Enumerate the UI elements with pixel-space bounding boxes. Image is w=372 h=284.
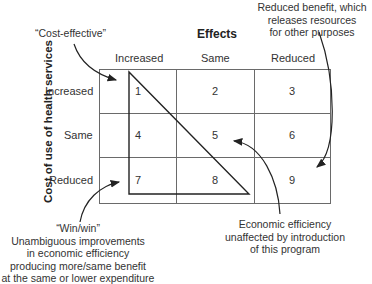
arrow-reduced-benefit bbox=[317, 32, 332, 167]
effects-title: Effects bbox=[197, 27, 237, 41]
annotation-line: in economic efficiency bbox=[0, 247, 158, 260]
annotation-reduced-benefit: Reduced benefit, which releases resource… bbox=[250, 1, 372, 39]
cell-7: 7 bbox=[135, 174, 141, 186]
annotation-line: at the same or lower expenditure bbox=[0, 272, 158, 284]
row-header-reduced: Reduced bbox=[49, 174, 93, 186]
annotation-unaffected: Economic efficiency unaffected by introd… bbox=[221, 218, 349, 256]
annotation-line: for other purposes bbox=[250, 26, 372, 39]
annotation-line: releases resources bbox=[250, 14, 372, 27]
annotation-win-win: “Win/win” Unambiguous improvements in ec… bbox=[0, 222, 158, 284]
cell-4: 4 bbox=[135, 129, 141, 141]
cell-2: 2 bbox=[212, 85, 218, 97]
arrow-cost-effective bbox=[74, 44, 116, 80]
annotation-line: producing more/same benefit bbox=[0, 260, 158, 273]
annotation-line: Unambiguous improvements bbox=[0, 235, 158, 248]
col-header-same: Same bbox=[201, 52, 230, 64]
annotation-line: “Win/win” bbox=[0, 222, 158, 235]
cell-9: 9 bbox=[289, 174, 295, 186]
cell-1: 1 bbox=[135, 85, 141, 97]
annotation-line: Reduced benefit, which bbox=[250, 1, 372, 14]
row-header-increased: Increased bbox=[45, 85, 93, 97]
annotation-line: unaffected by introduction bbox=[221, 231, 349, 244]
cell-8: 8 bbox=[212, 174, 218, 186]
cell-6: 6 bbox=[289, 129, 295, 141]
annotation-line: Economic efficiency bbox=[221, 218, 349, 231]
annotation-line: of this program bbox=[221, 243, 349, 256]
cell-5: 5 bbox=[212, 129, 218, 141]
annotation-cost-effective: “Cost-effective” bbox=[35, 27, 106, 40]
cell-3: 3 bbox=[289, 85, 295, 97]
col-header-reduced: Reduced bbox=[271, 52, 315, 64]
cost-effective-triangle bbox=[129, 72, 249, 194]
col-header-increased: Increased bbox=[115, 52, 163, 64]
row-header-same: Same bbox=[64, 129, 93, 141]
